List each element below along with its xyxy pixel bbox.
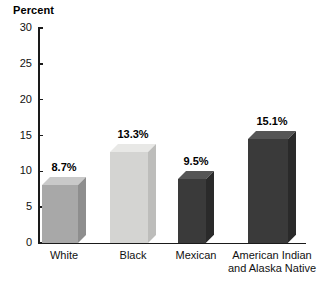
y-tick-mark <box>38 135 43 137</box>
bar-value-label: 13.3% <box>96 128 170 140</box>
bar-value-label: 8.7% <box>28 161 100 173</box>
y-tick-label: 15 <box>6 130 32 141</box>
bar-value-label: 15.1% <box>234 115 310 127</box>
y-tick-mark <box>38 27 43 29</box>
bar-1 <box>42 185 78 243</box>
y-tick-mark <box>38 63 43 65</box>
y-tick-mark <box>38 99 43 101</box>
category-label-1: White <box>25 249 103 262</box>
bar-front-face <box>110 152 148 243</box>
bar-4 <box>248 139 288 243</box>
bar-2 <box>110 152 148 243</box>
bar-side-face <box>288 131 297 244</box>
category-label-4: American Indian and Alaska Native <box>224 249 320 275</box>
bar-chart: Percent 302520151050 8.7%13.3%9.5%15.1% … <box>0 0 320 283</box>
y-tick-label: 0 <box>6 237 32 248</box>
bar-front-face <box>248 139 288 243</box>
y-axis-title: Percent <box>13 4 54 16</box>
bar-front-face <box>178 179 206 243</box>
bar-side-face <box>206 171 215 244</box>
bar-side-face <box>148 144 157 244</box>
bar-side-face <box>78 177 87 244</box>
y-tick-label: 20 <box>6 94 32 105</box>
y-tick-label: 30 <box>6 22 32 33</box>
bar-value-label: 9.5% <box>164 155 228 167</box>
bar-front-face <box>42 185 78 243</box>
y-tick-label: 5 <box>6 201 32 212</box>
y-tick-label: 25 <box>6 58 32 69</box>
bar-3 <box>178 179 206 243</box>
